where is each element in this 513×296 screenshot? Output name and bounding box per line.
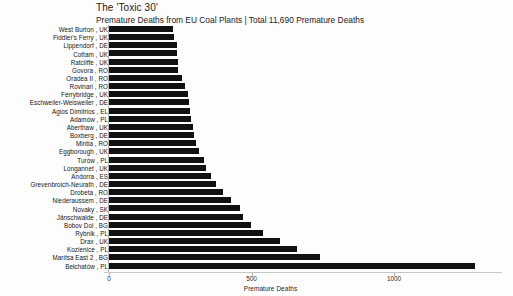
page-title: The 'Toxic 30' xyxy=(96,2,496,14)
bar xyxy=(109,197,231,203)
bar-row: Adamów , PL xyxy=(0,115,513,123)
category-label: Rybnik , PL xyxy=(75,229,108,236)
bar-row: Rovinari , RO xyxy=(0,82,513,90)
x-tick-label: 1000 xyxy=(387,275,401,282)
bar xyxy=(109,246,297,252)
bar-row: Bełchatów , PL xyxy=(0,262,513,270)
bar xyxy=(109,214,243,220)
category-label: Grevenbroich-Neurath , DE xyxy=(30,181,108,188)
bar-row: Niederaussem , DE xyxy=(0,196,513,204)
category-label: Rovinari , RO xyxy=(70,83,108,90)
category-label: Ratcliffe , UK xyxy=(71,58,108,65)
category-label: Niederaussem , DE xyxy=(53,197,108,204)
category-label: Drobeta , RO xyxy=(70,189,108,196)
bar-row: Eggborough , UK xyxy=(0,147,513,155)
bar xyxy=(109,67,178,73)
bar xyxy=(109,140,196,146)
category-label: Bełchatów , PL xyxy=(65,262,108,269)
category-label: Lippendorf , DE xyxy=(63,42,108,49)
x-tick-label: 0 xyxy=(107,275,111,282)
bar xyxy=(109,91,188,97)
category-label: Govora , RO xyxy=(72,66,108,73)
bar xyxy=(109,157,204,163)
category-label: Fiddler's Ferry , UK xyxy=(53,34,108,41)
bar-row: Turów , PL xyxy=(0,156,513,164)
bar xyxy=(109,165,206,171)
bar xyxy=(109,75,182,81)
category-label: Agios Dimitrios , EL xyxy=(52,107,108,114)
category-label: Boxberg , DE xyxy=(70,132,108,139)
bar-row: Lippendorf , DE xyxy=(0,41,513,49)
bar-row: Grevenbroich-Neurath , DE xyxy=(0,180,513,188)
bar-row: Drobeta , RO xyxy=(0,188,513,196)
bar xyxy=(109,263,475,269)
bar-row: Mintia , RO xyxy=(0,139,513,147)
bar-row: Bobov Dol , BG xyxy=(0,221,513,229)
bar-row: Jänschwalde , DE xyxy=(0,213,513,221)
bar xyxy=(109,26,173,32)
category-label: Turów , PL xyxy=(77,156,108,163)
bar xyxy=(109,181,216,187)
bar-row: Cottam , UK xyxy=(0,49,513,57)
bar xyxy=(109,132,194,138)
x-tick-label: 500 xyxy=(246,275,257,282)
bar-row: Novaky , SK xyxy=(0,204,513,212)
category-label: Andorra , ES xyxy=(71,172,108,179)
x-axis-line xyxy=(104,272,502,273)
bar xyxy=(109,83,185,89)
bar-row: Rybnik , PL xyxy=(0,229,513,237)
category-label: Novaky , SK xyxy=(73,205,108,212)
category-label: Mintia , RO xyxy=(76,140,108,147)
bar-row: Agios Dimitrios , EL xyxy=(0,107,513,115)
bar-row: Oradea II , RO xyxy=(0,74,513,82)
bar xyxy=(109,34,174,40)
bar xyxy=(109,189,223,195)
category-label: Eggborough , UK xyxy=(59,148,108,155)
bar xyxy=(109,59,178,65)
bar xyxy=(109,42,177,48)
bar-row: West Burton , UK xyxy=(0,25,513,33)
category-label: Eschweiler-Weisweiler , DE xyxy=(30,99,108,106)
bar xyxy=(109,50,177,56)
category-label: Oradea II , RO xyxy=(66,75,108,82)
category-label: Maritsa East 2 , BG xyxy=(52,254,108,261)
category-label: Longannet , UK xyxy=(64,164,108,171)
category-label: Cottam , UK xyxy=(73,50,108,57)
title-block: The 'Toxic 30' Premature Deaths from EU … xyxy=(96,2,496,26)
bar xyxy=(109,99,189,105)
bar xyxy=(109,238,280,244)
bar xyxy=(109,116,191,122)
x-axis-title-label: Premature Deaths xyxy=(244,285,297,292)
category-label: Kozienice , PL xyxy=(67,246,108,253)
bar-row: Drax , UK xyxy=(0,237,513,245)
category-label: Ferrybridge , UK xyxy=(61,91,108,98)
bar xyxy=(109,205,240,211)
bar-row: Ratcliffe , UK xyxy=(0,58,513,66)
bar xyxy=(109,222,251,228)
bar xyxy=(109,108,190,114)
chart-container: The 'Toxic 30' Premature Deaths from EU … xyxy=(0,0,513,296)
plot-area: West Burton , UKFiddler's Ferry , UKLipp… xyxy=(0,25,513,273)
bar-row: Govora , RO xyxy=(0,66,513,74)
bar-row: Kozienice , PL xyxy=(0,245,513,253)
category-label: West Burton , UK xyxy=(59,26,108,33)
bar-row: Ferrybridge , UK xyxy=(0,90,513,98)
bar-row: Longannet , UK xyxy=(0,164,513,172)
bar xyxy=(109,173,211,179)
category-label: Adamów , PL xyxy=(70,115,108,122)
bar xyxy=(109,124,193,130)
x-axis-title: Premature Deaths xyxy=(0,285,513,292)
bar-row: Fiddler's Ferry , UK xyxy=(0,33,513,41)
bar xyxy=(109,148,199,154)
bar-row: Maritsa East 2 , BG xyxy=(0,253,513,261)
bar-row: Andorra , ES xyxy=(0,172,513,180)
category-label: Bobov Dol , BG xyxy=(64,221,108,228)
bar xyxy=(109,230,263,236)
bar-row: Aberthaw , UK xyxy=(0,123,513,131)
category-label: Jänschwalde , DE xyxy=(57,213,108,220)
category-label: Drax , UK xyxy=(80,238,108,245)
bar-row: Eschweiler-Weisweiler , DE xyxy=(0,98,513,106)
bar-row: Boxberg , DE xyxy=(0,131,513,139)
bar xyxy=(109,254,320,260)
category-label: Aberthaw , UK xyxy=(67,123,108,130)
